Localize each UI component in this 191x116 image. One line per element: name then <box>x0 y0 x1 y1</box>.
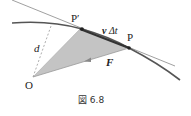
figure-diagram: P′ P O d v Δt F 図 6.8 <box>0 0 191 116</box>
figure-caption: 図 6.8 <box>78 95 104 105</box>
label-distance: d <box>34 42 40 54</box>
label-force: F <box>105 56 114 68</box>
label-origin: O <box>25 79 33 91</box>
label-delta-t: Δt <box>108 25 118 36</box>
point-p <box>127 46 131 50</box>
label-p: P <box>127 31 133 43</box>
label-p-prime: P′ <box>71 12 80 24</box>
point-p-prime <box>80 27 84 31</box>
area-triangle <box>33 29 129 77</box>
label-velocity: v <box>102 25 107 36</box>
